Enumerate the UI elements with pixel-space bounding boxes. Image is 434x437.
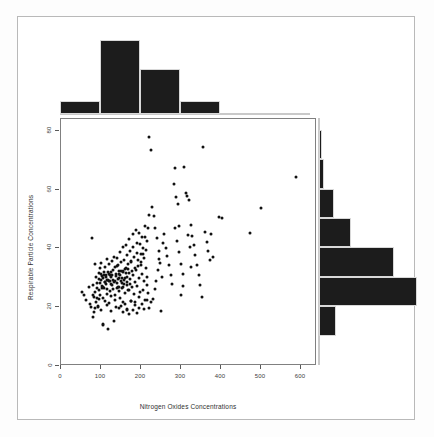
scatter-point — [141, 288, 144, 291]
scatter-point — [100, 287, 103, 290]
scatter-point — [104, 265, 107, 268]
scatter-point — [136, 312, 139, 315]
scatter-point — [130, 300, 133, 303]
x-axis-tick — [60, 365, 61, 369]
scatter-point — [128, 277, 131, 280]
x-axis-tick-label: 400 — [206, 373, 234, 379]
scatter-point — [145, 299, 148, 302]
scatter-point — [107, 327, 110, 330]
scatter-point — [171, 282, 174, 285]
scatter-point — [150, 300, 153, 303]
scatter-point — [142, 253, 145, 256]
scatter-point — [136, 285, 139, 288]
scatter-point — [180, 263, 183, 266]
scatter-point — [131, 233, 134, 236]
scatter-point — [133, 281, 136, 284]
scatter-point — [159, 262, 162, 265]
scatter-point — [116, 277, 119, 280]
x-axis-tick — [260, 365, 261, 369]
scatter-point — [116, 256, 119, 259]
scatter-point — [128, 282, 131, 285]
scatter-point — [192, 244, 195, 247]
scatter-point — [131, 286, 134, 289]
scatter-point — [127, 288, 130, 291]
right-histogram-bar — [319, 277, 417, 306]
scatter-point — [96, 296, 99, 299]
scatter-point — [115, 273, 118, 276]
scatter-point — [176, 240, 179, 243]
scatter-point — [147, 213, 150, 216]
scatter-point — [144, 266, 147, 269]
scatter-point — [147, 292, 150, 295]
scatter-point — [136, 259, 139, 262]
scatter-point — [134, 301, 137, 304]
right-histogram-bar — [319, 247, 394, 276]
x-axis-tick-label: 600 — [286, 373, 314, 379]
y-axis-tick — [55, 247, 59, 248]
scatter-point — [91, 294, 94, 297]
scatter-point — [138, 243, 141, 246]
scatter-point — [139, 253, 142, 256]
scatter-point — [119, 297, 122, 300]
scatter-point — [295, 175, 298, 178]
scatter-point — [108, 272, 111, 275]
right-histogram-bar — [319, 130, 322, 159]
scatter-point — [189, 223, 192, 226]
top-marginal-histogram — [60, 40, 316, 114]
x-axis-tick-label: 200 — [126, 373, 154, 379]
scatter-point — [175, 196, 178, 199]
scatter-point — [146, 283, 149, 286]
scatter-point — [149, 148, 152, 151]
scatter-point — [210, 233, 213, 236]
scatter-point — [98, 277, 101, 280]
scatter-point — [117, 269, 120, 272]
scatter-point — [118, 290, 121, 293]
scatter-point — [120, 305, 123, 308]
scatter-point — [137, 265, 140, 268]
scatter-point — [148, 307, 151, 310]
scatter-point — [137, 295, 140, 298]
scatter-point — [126, 262, 129, 265]
scatter-point — [156, 237, 159, 240]
scatter-point — [117, 264, 120, 267]
scatter-point — [111, 284, 114, 287]
scatter-point — [100, 309, 103, 312]
scatter-point — [138, 277, 141, 280]
scatter-point — [94, 291, 97, 294]
right-histogram-bar — [319, 159, 324, 188]
scatter-point — [108, 302, 111, 305]
y-axis-tick — [55, 189, 59, 190]
scatter-point — [99, 282, 102, 285]
scatter-point — [174, 227, 177, 230]
scatter-point — [172, 182, 175, 185]
scatter-point — [122, 311, 125, 314]
scatter-point — [187, 233, 190, 236]
scatter-point — [146, 239, 149, 242]
scatter-point — [104, 281, 107, 284]
scatter-point — [202, 145, 205, 148]
scatter-point — [148, 135, 151, 138]
y-axis-tick-label: 20 — [46, 303, 52, 310]
scatter-point — [176, 203, 179, 206]
scatter-point — [160, 275, 163, 278]
scatter-point — [194, 253, 197, 256]
scatter-point — [205, 240, 208, 243]
scatter-point — [112, 287, 115, 290]
scatter-point — [168, 264, 171, 267]
scatter-point — [154, 287, 157, 290]
scatter-point — [140, 260, 143, 263]
scatter-point — [90, 305, 93, 308]
scatter-point — [110, 259, 113, 262]
scatter-point — [180, 294, 183, 297]
scatter-point — [125, 244, 128, 247]
scatter-point — [94, 276, 97, 279]
scatter-point — [122, 286, 125, 289]
y-axis-tick-label: 60 — [46, 185, 52, 192]
scatter-point — [91, 237, 94, 240]
scatter-with-marginal-histograms-figure: 0204060800100200300400500600 Respirable … — [0, 0, 434, 437]
page-canvas: 0204060800100200300400500600 Respirable … — [0, 0, 434, 437]
scatter-point — [105, 287, 108, 290]
x-axis-tick-label: 500 — [246, 373, 274, 379]
scatter-point — [146, 227, 149, 230]
scatter-point — [106, 257, 109, 260]
